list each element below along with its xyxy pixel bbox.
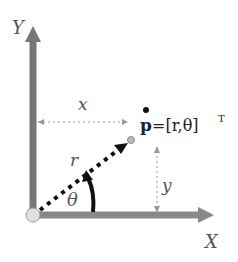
origin-point	[26, 208, 40, 222]
point-marker	[128, 137, 135, 144]
angle-label: θ	[67, 189, 78, 210]
y-distance-guide	[154, 146, 160, 213]
x-axis	[33, 207, 214, 223]
x-axis-label: X	[203, 231, 219, 252]
polar-coordinate-diagram: Y X x y r θ p =[r,θ] T	[0, 0, 238, 262]
x-distance-guide	[38, 119, 128, 125]
point-label: p	[140, 115, 152, 135]
y-axis	[25, 26, 41, 215]
y-distance-label: y	[161, 175, 172, 195]
y-axis-arrowhead-icon	[25, 26, 41, 42]
point-dot-accent	[143, 107, 149, 113]
radius-arrowhead-icon	[114, 143, 128, 154]
x-axis-arrowhead-icon	[198, 207, 214, 223]
x-distance-label: x	[78, 94, 88, 114]
transpose-superscript: T	[218, 113, 225, 124]
y-axis-label: Y	[12, 17, 26, 38]
radius-label: r	[70, 150, 79, 170]
point-equation: =[r,θ]	[152, 116, 199, 135]
